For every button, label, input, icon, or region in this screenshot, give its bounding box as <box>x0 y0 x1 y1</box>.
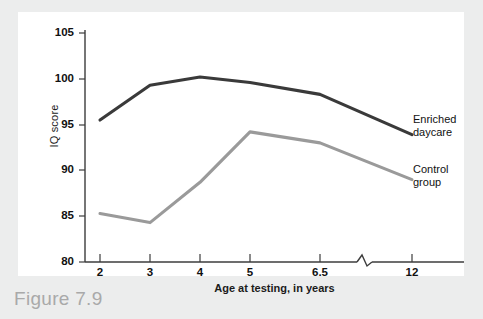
x-tick-label-5: 5 <box>230 266 270 278</box>
legend-label-control-group: Control group <box>413 163 448 188</box>
y-tick-label-95: 95 <box>44 118 74 130</box>
y-tick-label-100: 100 <box>44 72 74 84</box>
x-tick-label-12: 12 <box>392 266 432 278</box>
x-axis-title: Age at testing, in years <box>85 282 464 294</box>
figure-page: IQ score 105 100 95 90 85 80 2 3 4 5 6.5… <box>0 0 483 319</box>
y-tick-label-85: 85 <box>44 209 74 221</box>
legend-label-enriched-daycare: Enriched daycare <box>413 113 456 138</box>
line-control-group <box>100 132 412 223</box>
y-tick-label-80: 80 <box>44 255 74 267</box>
figure-caption: Figure 7.9 <box>14 288 103 310</box>
x-axis-break-icon <box>357 255 372 266</box>
x-tick-label-6.5: 6.5 <box>300 266 340 278</box>
x-tick-label-4: 4 <box>180 266 220 278</box>
line-enriched-daycare <box>100 77 412 135</box>
x-tick-label-3: 3 <box>130 266 170 278</box>
legend-enriched-line1: Enriched <box>413 113 456 125</box>
y-tick-label-90: 90 <box>44 163 74 175</box>
x-tick-label-2: 2 <box>80 266 120 278</box>
legend-enriched-line2: daycare <box>413 126 452 138</box>
legend-control-line2: group <box>413 176 441 188</box>
chart-plot-area: IQ score 105 100 95 90 85 80 2 3 4 5 6.5… <box>0 0 483 319</box>
legend-control-line1: Control <box>413 163 448 175</box>
y-tick-label-105: 105 <box>44 26 74 38</box>
